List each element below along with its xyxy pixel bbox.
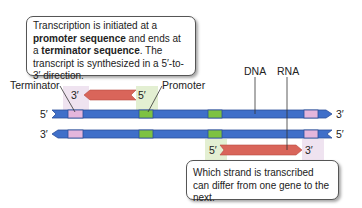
- rna-transcript-bottom: [220, 145, 302, 155]
- terminator-box: [68, 110, 83, 118]
- top-strand-3prime: 3′: [336, 108, 344, 120]
- callout-text: Which strand is transcribed can differ f…: [193, 167, 329, 203]
- promoter-label: Promoter: [162, 79, 205, 91]
- promoter-box: [139, 130, 153, 138]
- promoter-box: [208, 130, 222, 138]
- callout-text: Transcription is initiated at a: [33, 20, 157, 31]
- promoter-box: [139, 110, 153, 118]
- rna-label: RNA: [277, 65, 299, 77]
- rna-bottom-5prime: 5′: [209, 144, 217, 156]
- dna-strand-bottom: [52, 130, 332, 138]
- terminator-box: [68, 130, 83, 138]
- top-strand-5prime: 5′: [40, 108, 48, 120]
- terminator-label: Terminator: [10, 79, 60, 91]
- callout-bold-promoter: promoter sequence: [33, 33, 126, 44]
- callout-top: Transcription is initiated at a promoter…: [26, 16, 196, 76]
- rna-bottom-3prime: 3′: [305, 144, 313, 156]
- callout-bold-terminator: terminator sequence: [41, 45, 139, 56]
- callout-bottom: Which strand is transcribed can differ f…: [186, 160, 339, 200]
- bottom-strand-3prime: 3′: [40, 128, 48, 140]
- rna-top-5prime: 5′: [138, 89, 146, 101]
- rna-transcript-top: [84, 90, 136, 100]
- promoter-box: [208, 110, 222, 118]
- dna-strand-top: [52, 110, 332, 118]
- bottom-strand-5prime: 5′: [336, 128, 344, 140]
- dna-label: DNA: [244, 65, 266, 77]
- rna-top-3prime: 3′: [71, 89, 79, 101]
- terminator-box: [304, 110, 318, 118]
- terminator-box: [304, 130, 318, 138]
